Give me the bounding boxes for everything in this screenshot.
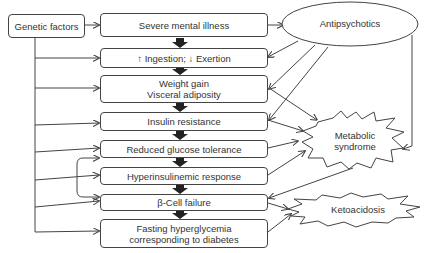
hyperinsulinemic-response-box: Hyperinsulinemic response — [100, 167, 268, 185]
ingestion-exertion-box: ↑ Ingestion; ↓ Exertion — [100, 48, 268, 68]
visceral-adiposity-label: Visceral adiposity — [147, 89, 221, 100]
severe-mental-illness-label: Severe mental illness — [139, 20, 229, 31]
reduced-glucose-tolerance-box: Reduced glucose tolerance — [100, 140, 268, 158]
genetic-factors-label: Genetic factors — [15, 21, 79, 32]
insulin-resistance-box: Insulin resistance — [100, 112, 268, 131]
antipsychotics-label: Antipsychotics — [300, 18, 400, 29]
ingestion-exertion-label: ↑ Ingestion; ↓ Exertion — [137, 53, 230, 64]
weight-gain-label: Weight gain — [159, 78, 209, 89]
syndrome-label: syndrome — [320, 141, 390, 152]
corresponding-to-diabetes-label: corresponding to diabetes — [129, 234, 238, 245]
hyperinsulinemic-response-label: Hyperinsulinemic response — [127, 171, 241, 182]
insulin-resistance-label: Insulin resistance — [147, 116, 220, 127]
metabolic-label: Metabolic — [320, 130, 390, 141]
weight-gain-box: Weight gain Visceral adiposity — [100, 75, 268, 103]
fasting-hyperglycemia-label: Fasting hyperglycemia — [136, 223, 231, 234]
fasting-hyperglycemia-box: Fasting hyperglycemia corresponding to d… — [100, 219, 268, 248]
reduced-glucose-tolerance-label: Reduced glucose tolerance — [126, 144, 241, 155]
severe-mental-illness-box: Severe mental illness — [100, 13, 268, 37]
metabolic-syndrome-label: Metabolic syndrome — [320, 130, 390, 152]
beta-cell-failure-box: β-Cell failure — [100, 194, 268, 211]
genetic-factors-box: Genetic factors — [8, 14, 85, 38]
beta-cell-failure-label: β-Cell failure — [157, 197, 211, 208]
ketoacidosis-label: Ketoacidosis — [318, 204, 398, 215]
